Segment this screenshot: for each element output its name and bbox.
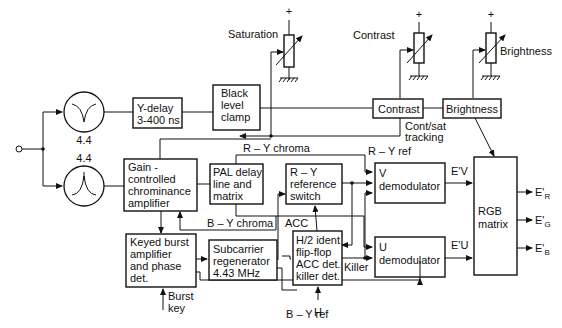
svg-text:regenerator: regenerator <box>213 255 270 267</box>
burst-key-label: Burst <box>168 290 194 302</box>
saturation-potentiometer: + <box>269 5 302 138</box>
svg-text:det.: det. <box>130 272 148 284</box>
ry-chroma-label: R – Y chroma <box>243 142 311 154</box>
input-terminal <box>16 112 62 186</box>
eb-output-label: E'B <box>535 242 550 257</box>
svg-text:RGB: RGB <box>478 205 502 217</box>
svg-text:Contrast: Contrast <box>378 103 420 115</box>
svg-text:4.43 MHz: 4.43 MHz <box>213 267 260 279</box>
svg-text:flip-flop: flip-flop <box>296 246 331 258</box>
svg-text:key: key <box>168 302 186 314</box>
svg-text:3-400 ns: 3-400 ns <box>137 114 180 126</box>
svg-text:Y-delay: Y-delay <box>137 102 174 114</box>
by-ref-label: B – Y ref <box>286 308 329 320</box>
svg-text:matrix: matrix <box>213 190 243 202</box>
svg-text:matrix: matrix <box>478 218 508 230</box>
svg-text:level: level <box>221 99 244 111</box>
svg-text:Brightness: Brightness <box>446 103 498 115</box>
keyed-burst-amplifier-block: Keyed burst amplifier and phase det. <box>126 234 196 287</box>
svg-text:ACC det.: ACC det. <box>296 258 341 270</box>
decoder-diagram: 4.4 4.4 Y-delay 3-400 ns Black level cla… <box>0 0 562 328</box>
contrast-label: Contrast <box>353 29 395 41</box>
notch-filter-icon <box>64 92 104 132</box>
svg-text:killer det.: killer det. <box>296 270 340 282</box>
svg-text:controlled: controlled <box>128 173 176 185</box>
svg-text:U: U <box>379 241 387 253</box>
acc-label: ACC <box>285 217 308 229</box>
eg-output-label: E'G <box>535 214 551 229</box>
svg-text:clamp: clamp <box>221 111 250 123</box>
svg-text:amplifier: amplifier <box>128 197 170 209</box>
bandpass-filter-label: 4.4 <box>76 152 91 164</box>
svg-text:demodulator: demodulator <box>379 180 440 192</box>
killer-label: Killer <box>344 261 369 273</box>
ry-ref-label: R – Y ref <box>368 145 412 157</box>
svg-text:Gain -: Gain - <box>128 161 158 173</box>
svg-text:amplifier: amplifier <box>130 248 172 260</box>
svg-text:Keyed burst: Keyed burst <box>130 236 189 248</box>
ry-reference-switch-block: R – Y reference switch <box>286 164 342 204</box>
svg-text:H/2 ident: H/2 ident <box>296 234 340 246</box>
h-label: H <box>314 306 322 318</box>
y-delay-block: Y-delay 3-400 ns <box>133 98 182 128</box>
svg-text:+: + <box>286 5 292 17</box>
svg-text:chrominance: chrominance <box>128 185 191 197</box>
svg-text:demodulator: demodulator <box>379 254 440 266</box>
svg-text:PAL delay: PAL delay <box>213 166 262 178</box>
svg-text:Subcarrier: Subcarrier <box>213 243 264 255</box>
saturation-label: Saturation <box>228 28 278 40</box>
gain-controlled-amplifier-block: Gain - controlled chrominance amplifier <box>124 159 197 211</box>
svg-text:+: + <box>488 8 494 20</box>
brightness-label: Brightness <box>500 45 552 57</box>
pal-delay-line-block: PAL delay line and matrix <box>210 164 263 204</box>
eu-label: E'U <box>451 239 468 251</box>
v-demodulator-block: V demodulator <box>375 163 445 203</box>
er-output-label: E'R <box>535 186 550 201</box>
contrast-block: Contrast <box>373 99 423 118</box>
black-level-clamp-block: Black level clamp <box>213 85 260 130</box>
subcarrier-regenerator-block: Subcarrier regenerator 4.43 MHz <box>209 240 277 280</box>
contrast-potentiometer: + <box>400 8 432 98</box>
svg-text:+: + <box>416 8 422 20</box>
u-demodulator-block: U demodulator <box>375 237 445 277</box>
svg-text:R – Y: R – Y <box>290 166 318 178</box>
svg-text:Black: Black <box>221 87 248 99</box>
rgb-matrix-block: RGB matrix <box>474 157 517 275</box>
notch-filter-label: 4.4 <box>76 134 91 146</box>
svg-text:line and: line and <box>213 178 252 190</box>
bandpass-filter-icon <box>64 166 104 206</box>
svg-text:tracking: tracking <box>405 131 444 143</box>
svg-text:and phase: and phase <box>130 260 181 272</box>
svg-text:reference: reference <box>290 178 336 190</box>
svg-text:V: V <box>379 167 387 179</box>
h2-ident-flipflop-block: H/2 ident flip-flop ACC det. killer det. <box>293 231 342 285</box>
by-chroma-label: B – Y chroma <box>207 217 274 229</box>
ev-label: E'V <box>451 165 468 177</box>
svg-text:switch: switch <box>290 190 321 202</box>
brightness-block: Brightness <box>443 99 501 118</box>
